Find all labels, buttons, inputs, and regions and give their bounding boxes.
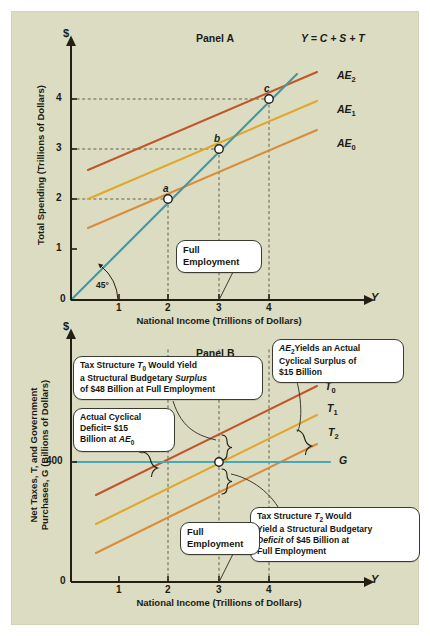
callout-surplus-l1: AE2Yields an Actual — [279, 343, 397, 356]
label-ae1-text: AE — [337, 103, 352, 115]
label-ae2-sub: 2 — [352, 75, 356, 84]
line-ae1 — [88, 101, 317, 199]
line-ae2 — [88, 72, 317, 170]
panel-b-xtick-3: 3 — [216, 585, 222, 596]
panel-b-y-axis-title: Net Taxes, T, and Government Purchases, … — [28, 350, 50, 560]
callout-t0-line2: a Structural Budgetary Surplus — [80, 373, 256, 384]
line-ae0 — [88, 130, 317, 228]
brace-cyclical-deficit — [143, 452, 158, 477]
label-ae1-sub: 1 — [352, 109, 356, 118]
label-ae0: AE0 — [337, 138, 356, 152]
callout-t0-l1c: Would Yield — [146, 360, 197, 370]
panel-a-xtick-2: 2 — [165, 303, 171, 314]
panel-a-ytick-3: 3 — [56, 143, 62, 154]
callout-deficit-l3: Billion at AE0 — [80, 434, 168, 447]
panel-b-equilibrium-point — [215, 458, 223, 466]
callout-t2-l1c: Would — [323, 511, 351, 521]
panel-b-fe-leader — [219, 554, 233, 582]
label-t0: T0 — [325, 381, 336, 395]
label-t1-sub: 1 — [333, 408, 337, 417]
panel-a-y-axis-symbol: $ — [63, 28, 69, 40]
label-t1: T1 — [327, 403, 338, 417]
callout-t0-l1a: Tax Structure — [80, 360, 137, 370]
angle-45-label: 45° — [96, 281, 109, 290]
callout-t0-l2i: Surplus — [175, 373, 207, 383]
panel-b-xtick-1: 1 — [116, 585, 122, 596]
figure-root: $ Panel A Y = C + S + T AE2 AE1 AE0 c b … — [0, 0, 430, 636]
label-ae2-text: AE — [337, 69, 352, 81]
callout-structural-deficit-t2: Tax Structure T2 Would Yield a Structura… — [250, 507, 420, 562]
point-label-a: a — [163, 184, 169, 195]
panel-a-xtick-1: 1 — [116, 303, 122, 314]
callout-t2-line1: Tax Structure T2 Would — [257, 511, 413, 524]
label-ae1: AE1 — [337, 104, 356, 118]
label-g: G — [339, 455, 347, 466]
panel-a-x-axis-title: National Income (Trillions of Dollars) — [71, 315, 367, 326]
callout-deficit-l3b: AE — [119, 434, 131, 444]
panel-b-x-axis-symbol: Y — [371, 574, 378, 586]
panel-b-xtick-4: 4 — [266, 585, 272, 596]
panel-a-xtick-4: 4 — [266, 303, 272, 314]
label-t2-sub: 2 — [334, 432, 338, 441]
point-a — [164, 195, 172, 203]
panel-a-title: Panel A — [196, 33, 234, 44]
label-ae0-sub: 0 — [352, 143, 356, 152]
callout-surplus-l2: Cyclical Surplus of — [279, 356, 397, 367]
point-label-b: b — [214, 134, 220, 145]
point-label-c: c — [264, 84, 270, 95]
label-ae0-text: AE — [337, 137, 352, 149]
panel-a-origin: 0 — [60, 294, 66, 305]
callout-deficit-l3sub: 0 — [131, 439, 135, 446]
point-c — [265, 95, 273, 103]
panel-a-full-employment-callout: Full Employment — [176, 240, 262, 273]
callout-structural-surplus-t0: Tax Structure T0 Would Yield a Structura… — [73, 356, 263, 400]
panel-a-ytick-1: 1 — [56, 243, 62, 254]
label-income-line: Y = C + S + T — [301, 33, 365, 44]
callout-surplus-l1b: Yields an Actual — [295, 343, 361, 353]
label-ae2: AE2 — [337, 70, 356, 84]
label-t2: T2 — [328, 427, 339, 441]
panel-b-full-employment-callout: Full Employment — [180, 522, 260, 555]
panel-a-x-axis-symbol: Y — [371, 292, 378, 304]
callout-t2-line3: Deficit of $45 Billion at — [257, 535, 413, 546]
callout-t2-l3i: Deficit — [257, 535, 283, 545]
callout-surplus-l3: $15 Billion — [279, 367, 397, 378]
panel-b-y-axis-title-l2: Purchases, G (Billions of Dollars) — [39, 350, 50, 560]
callout-t2-line4: Full Employment — [257, 546, 413, 557]
callout-t0-l2a: a Structural Budgetary — [80, 373, 175, 383]
panel-b-fe-line1: Full — [187, 526, 253, 538]
callout-t2-l3r: of $45 Billion at — [283, 535, 349, 545]
panel-b-y-axis-title-l1: Net Taxes, T, and Government — [28, 350, 39, 560]
panel-a-ytick-4: 4 — [56, 93, 62, 104]
panel-a-ytick-2: 2 — [56, 193, 62, 204]
callout-deficit-l1: Actual Cyclical — [80, 412, 168, 423]
callout-t2-l1a: Tax Structure — [257, 511, 314, 521]
callout-surplus-l1a: AE — [279, 343, 291, 353]
callout-t2-line2: Yield a Structural Budgetary — [257, 524, 413, 535]
panel-a-xtick-3: 3 — [216, 303, 222, 314]
callout-actual-cyclical-surplus: AE2Yields an Actual Cyclical Surplus of … — [272, 339, 404, 383]
panel-a-y-axis-title: Total Spending (Trillions of Dollars) — [36, 40, 47, 290]
callout-t0-line1: Tax Structure T0 Would Yield — [80, 360, 256, 373]
callout-deficit-l3a: Billion at — [80, 434, 119, 444]
callout-actual-cyclical-deficit: Actual Cyclical Deficit= $15 Billion at … — [73, 408, 175, 452]
panel-b-xtick-2: 2 — [165, 585, 171, 596]
panel-b-origin: 0 — [60, 576, 66, 587]
panel-b-y-axis-symbol: $ — [63, 321, 69, 333]
point-b — [215, 145, 223, 153]
panel-a-fe-line1: Full — [183, 244, 255, 256]
callout-t0-line3: of $48 Billion at Full Employment — [80, 384, 256, 395]
callout-deficit-l2: Deficit= $15 — [80, 423, 168, 434]
leader-t0-callout — [173, 401, 216, 440]
panel-a-fe-leader — [219, 272, 233, 300]
panel-b-x-axis-title: National Income (Trillions of Dollars) — [71, 597, 367, 608]
brace-structural-surplus — [222, 435, 232, 460]
label-t0-sub: 0 — [331, 386, 335, 395]
panel-b-fe-line2: Employment — [187, 538, 253, 550]
panel-a-fe-line2: Employment — [183, 256, 255, 268]
